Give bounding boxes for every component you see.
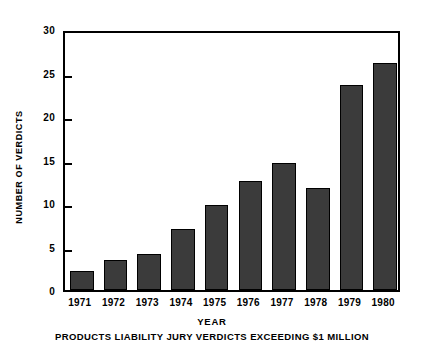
y-axis-tick-label: 5 xyxy=(15,243,55,254)
y-axis-tick-label: 0 xyxy=(15,286,55,297)
plot-inner xyxy=(65,33,398,290)
bar xyxy=(70,271,94,290)
y-axis-tick-label: 20 xyxy=(15,112,55,123)
y-axis-tick-label: 30 xyxy=(15,25,55,36)
bar xyxy=(340,85,364,290)
y-axis-tick xyxy=(65,163,72,165)
bar xyxy=(205,205,229,290)
x-axis-title: YEAR xyxy=(0,316,424,327)
y-axis-tick xyxy=(65,250,72,252)
bar xyxy=(272,163,296,290)
plot-area xyxy=(63,31,400,292)
y-axis-tick-label: 25 xyxy=(15,69,55,80)
bar xyxy=(373,63,397,290)
chart-figure: NUMBER OF VERDICTS 051015202530 19711972… xyxy=(0,0,424,356)
bar xyxy=(137,254,161,290)
y-axis-tick-label: 10 xyxy=(15,199,55,210)
bar xyxy=(306,188,330,290)
y-axis-tick xyxy=(65,206,72,208)
bar xyxy=(171,229,195,290)
x-axis-tick-label: 1980 xyxy=(358,297,408,308)
bar xyxy=(239,181,263,290)
y-axis-tick xyxy=(65,119,72,121)
y-axis-tick xyxy=(65,76,72,78)
chart-caption: PRODUCTS LIABILITY JURY VERDICTS EXCEEDI… xyxy=(0,331,424,342)
y-axis-tick-label: 15 xyxy=(15,156,55,167)
bar xyxy=(104,260,128,290)
